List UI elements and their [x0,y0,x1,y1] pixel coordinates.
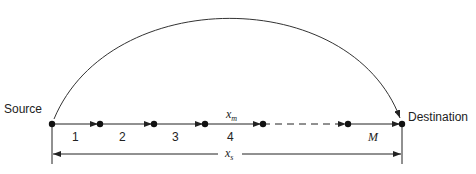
node-relay [260,121,266,127]
node-destination [399,121,405,127]
hop-label-1: 1 [72,131,79,143]
node-relay [97,121,103,127]
total-distance-label: xs [225,147,233,162]
hop-label-3: 3 [172,131,179,143]
hop-label-M: M [368,131,378,143]
node-relay [151,121,157,127]
diagram-graphics [0,0,476,174]
multihop-diagram: Source Destination 1 2 3 4 M xm xs [0,0,476,174]
hop-distance-label: xm [226,108,237,123]
node-relay [345,121,351,127]
destination-label: Destination [408,111,468,123]
hop-label-2: 2 [119,131,126,143]
node-source [49,121,55,127]
direct-link-arc [54,18,400,119]
hop-label-4: 4 [227,131,234,143]
node-relay [202,121,208,127]
source-label: Source [4,103,42,115]
